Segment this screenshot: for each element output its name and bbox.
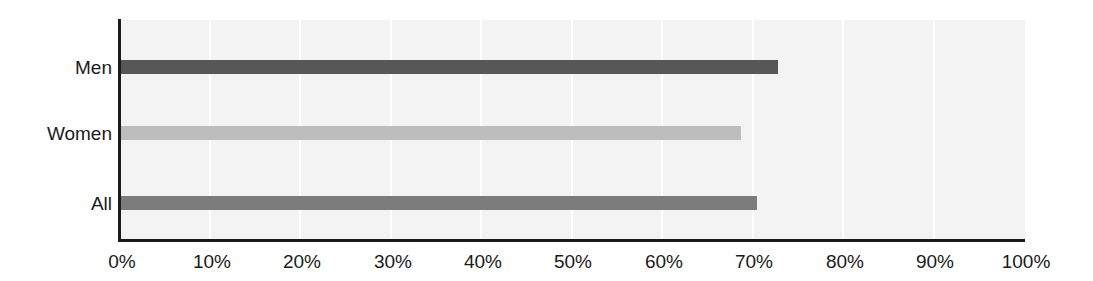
y-axis-label-men: Men [0, 58, 112, 78]
x-tick-100: 100% [981, 252, 1071, 272]
bar-women [121, 126, 741, 140]
x-tick-50: 50% [528, 252, 618, 272]
x-tick-60-text: 60% [645, 251, 683, 272]
x-tick-90-text: 90% [916, 251, 954, 272]
y-axis-label-all: All [0, 194, 112, 214]
bar-chart: Men Women All 0% 10% 20% 30% 40% 50% 60%… [0, 0, 1093, 281]
y-axis-label-men-text: Men [75, 57, 112, 78]
x-tick-0-text: 0% [108, 251, 135, 272]
x-tick-10-text: 10% [193, 251, 231, 272]
x-tick-70-text: 70% [735, 251, 773, 272]
x-tick-50-text: 50% [554, 251, 592, 272]
x-tick-0: 0% [77, 252, 167, 272]
y-axis-label-all-text: All [91, 193, 112, 214]
y-axis-label-women-text: Women [47, 123, 112, 144]
x-tick-80: 80% [800, 252, 890, 272]
x-tick-70: 70% [709, 252, 799, 272]
x-tick-20-text: 20% [283, 251, 321, 272]
x-tick-100-text: 100% [1002, 251, 1051, 272]
y-axis-line [118, 19, 121, 241]
x-tick-40-text: 40% [464, 251, 502, 272]
x-tick-90: 90% [890, 252, 980, 272]
x-tick-20: 20% [257, 252, 347, 272]
gridline-80 [842, 20, 844, 240]
y-axis-label-women: Women [0, 124, 112, 144]
x-tick-80-text: 80% [826, 251, 864, 272]
x-tick-40: 40% [438, 252, 528, 272]
plot-area [121, 20, 1025, 240]
bar-men [121, 60, 778, 74]
x-axis-line [118, 239, 1025, 242]
x-tick-30-text: 30% [374, 251, 412, 272]
x-tick-60: 60% [619, 252, 709, 272]
gridline-90 [933, 20, 935, 240]
x-tick-10: 10% [167, 252, 257, 272]
bar-all [121, 196, 757, 210]
x-tick-30: 30% [348, 252, 438, 272]
